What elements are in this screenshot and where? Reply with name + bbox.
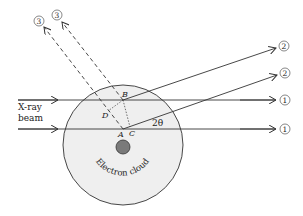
point-label-d: D bbox=[101, 111, 109, 120]
nucleus bbox=[116, 140, 130, 154]
point-label-a: A bbox=[117, 130, 124, 139]
x-ray-scattering-diagram: B D A C 2θ X-ray beam Electron cloud 3 3… bbox=[0, 0, 303, 216]
svg-text:1: 1 bbox=[283, 96, 288, 105]
ray-marker-3-left: 3 bbox=[34, 16, 44, 26]
beam-label-line2: beam bbox=[18, 113, 43, 123]
ray-marker-3-right: 3 bbox=[52, 10, 62, 20]
svg-text:3: 3 bbox=[37, 17, 42, 26]
point-label-c: C bbox=[129, 129, 135, 138]
point-label-b: B bbox=[121, 90, 128, 99]
ray-marker-2-lower: 2 bbox=[280, 68, 290, 78]
ray-marker-1-lower: 1 bbox=[280, 124, 290, 134]
angle-label: 2θ bbox=[152, 118, 163, 128]
svg-text:2: 2 bbox=[282, 42, 287, 51]
beam-label-line1: X-ray bbox=[18, 102, 43, 112]
backscattered-ray-3-right bbox=[62, 22, 123, 100]
ray-marker-1-upper: 1 bbox=[280, 95, 290, 105]
svg-text:3: 3 bbox=[55, 11, 60, 20]
ray-marker-2-upper: 2 bbox=[279, 41, 289, 51]
scattered-ray-2-upper bbox=[123, 48, 276, 100]
svg-text:2: 2 bbox=[283, 69, 288, 78]
svg-text:1: 1 bbox=[283, 125, 288, 134]
